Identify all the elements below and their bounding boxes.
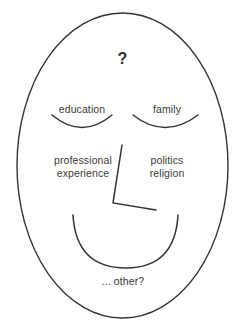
label-family: family xyxy=(139,103,195,116)
label-professional-experience: professional experience xyxy=(44,154,122,180)
diagram-canvas: ? education family professional experien… xyxy=(0,0,245,332)
label-politics-religion: politics religion xyxy=(136,154,198,180)
question-mark-label: ? xyxy=(0,50,245,68)
label-education: education xyxy=(46,103,118,116)
label-other: ... other? xyxy=(73,275,173,288)
